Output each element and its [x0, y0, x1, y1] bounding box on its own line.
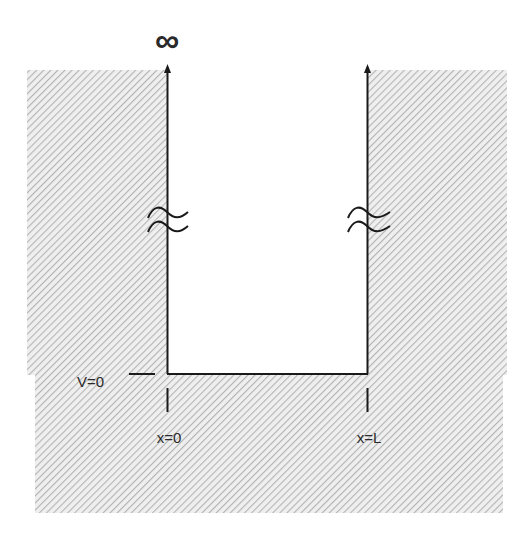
infinity-label: ∞ [155, 21, 179, 59]
square-well-diagram: ∞ V=0 x=0 x=L [0, 0, 529, 546]
below-well-region [35, 375, 503, 513]
right-wall-position-label: x=L [357, 429, 382, 446]
left-wall-position-label: x=0 [157, 429, 182, 446]
up-arrow-icon [164, 64, 171, 73]
well-interior [168, 70, 368, 375]
right-wall-region [368, 70, 507, 375]
potential-zero-label: V=0 [77, 373, 104, 390]
left-wall-region [27, 70, 167, 375]
up-arrow-icon [364, 64, 371, 73]
